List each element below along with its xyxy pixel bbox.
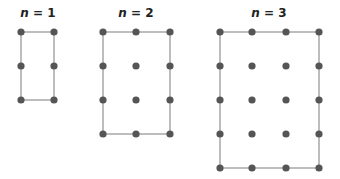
lattice-point [17,28,24,35]
lattice-point [282,130,289,137]
lattice-point [17,96,24,103]
lattice-point [315,62,322,69]
panel-title: n = 2 [118,6,153,20]
lattice-point [248,130,255,137]
lattice-point [282,28,289,35]
lattice-point [166,28,173,35]
lattice-point [132,130,139,137]
boundary-rectangle [103,32,170,134]
lattice-point [248,164,255,171]
panel-title: n = 1 [20,6,55,20]
lattice-point [216,96,223,103]
lattice-point [99,96,106,103]
lattice-point [248,96,255,103]
lattice-point [17,62,24,69]
lattice-point [50,62,57,69]
lattice-point [50,28,57,35]
lattice-point [132,62,139,69]
boundary-rectangle [21,32,54,100]
lattice-point [166,130,173,137]
lattice-point [99,28,106,35]
lattice-point [216,28,223,35]
panel-title: n = 3 [251,6,286,20]
lattice-point [315,28,322,35]
lattice-point [315,96,322,103]
lattice-point [315,164,322,171]
lattice-point [132,96,139,103]
lattice-point [282,164,289,171]
panel-n1: n = 1 [17,6,57,104]
lattice-point [99,62,106,69]
lattice-point [248,62,255,69]
lattice-point [216,62,223,69]
lattice-point [315,130,322,137]
lattice-point [50,96,57,103]
lattice-point [166,96,173,103]
lattice-point [248,28,255,35]
lattice-point [166,62,173,69]
boundary-rectangle [220,32,319,168]
lattice-point [216,164,223,171]
lattice-point [99,130,106,137]
panel-n3: n = 3 [216,6,322,172]
lattice-point [132,28,139,35]
lattice-point [282,96,289,103]
lattice-diagram: n = 1 n = 2 n = 3 [0,0,340,179]
lattice-point [282,62,289,69]
lattice-point [216,130,223,137]
panel-n2: n = 2 [99,6,173,138]
